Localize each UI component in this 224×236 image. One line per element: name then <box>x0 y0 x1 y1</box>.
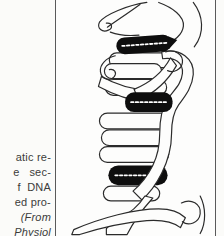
strand-edge <box>193 2 201 46</box>
figure-box <box>55 0 216 236</box>
white-rung <box>99 113 168 129</box>
base-pair-bar-2 <box>125 92 172 112</box>
caption-line: atic re- <box>0 150 51 165</box>
caption-line: Physiol <box>0 225 51 236</box>
strand-edge <box>110 32 139 35</box>
caption-line: f DNA <box>0 180 51 195</box>
strand-edge <box>200 196 204 234</box>
scanned-page: atic re- e sec- f DNA ed pro- (From Phys… <box>0 0 224 236</box>
figure-caption: atic re- e sec- f DNA ed pro- (From Phys… <box>0 150 51 236</box>
white-rung <box>104 64 161 79</box>
caption-line: e sec- <box>0 165 51 180</box>
caption-line: (From <box>0 210 51 225</box>
dna-helix-illustration <box>56 0 215 236</box>
caption-line: ed pro- <box>0 195 51 210</box>
